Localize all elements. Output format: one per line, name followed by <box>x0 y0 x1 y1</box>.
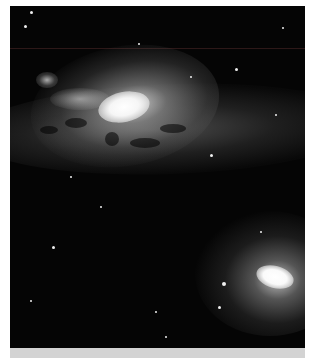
star <box>210 154 213 157</box>
star <box>218 306 221 309</box>
star <box>70 176 72 178</box>
star <box>235 68 238 71</box>
star <box>24 25 27 28</box>
star <box>190 76 192 78</box>
dust-patch <box>130 138 160 148</box>
star <box>30 11 33 14</box>
star <box>282 27 284 29</box>
galaxy-photograph <box>10 6 305 348</box>
star <box>165 336 167 338</box>
star <box>138 43 140 45</box>
dust-patch <box>160 124 186 133</box>
small-galaxy <box>36 72 58 88</box>
star <box>30 300 32 302</box>
star <box>260 231 262 233</box>
star <box>222 282 226 286</box>
star <box>100 206 102 208</box>
dust-patch <box>105 132 119 146</box>
dust-patch <box>65 118 87 128</box>
star <box>155 311 157 313</box>
right-margin <box>305 0 310 358</box>
bottom-bar <box>10 348 305 358</box>
star <box>275 114 277 116</box>
star <box>52 246 55 249</box>
dust-patch <box>40 126 58 134</box>
